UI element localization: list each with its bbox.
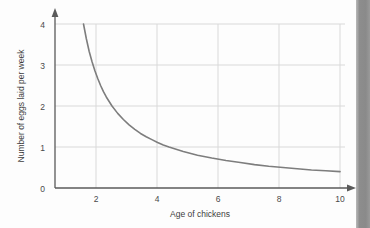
y-tick-label-1: 1 [40,143,45,153]
egg-production-line-chart: 0 1 2 3 4 2 4 6 8 10 Age of chickens Num… [0,0,370,228]
y-tick-label-4: 4 [40,20,45,30]
y-tick-label-2: 2 [40,102,45,112]
y-tick-label-0: 0 [40,184,45,194]
x-axis [55,185,356,192]
y-axis [52,8,59,188]
x-tick-label-6: 6 [216,194,221,204]
x-axis-title: Age of chickens [170,209,230,219]
data-curve-eggs-per-week [84,24,341,172]
x-axis-arrowhead [347,185,356,192]
x-tick-label-2: 2 [94,194,99,204]
y-axis-title: Number of eggs laid per week [16,49,26,163]
scanned-page-edge [356,0,370,228]
chart-figure: 0 1 2 3 4 2 4 6 8 10 Age of chickens Num… [0,0,370,228]
y-axis-arrowhead [52,8,59,17]
y-tick-label-3: 3 [40,61,45,71]
x-tick-label-10: 10 [335,194,345,204]
horizontal-gridlines [55,24,345,147]
x-tick-label-4: 4 [155,194,160,204]
x-tick-label-8: 8 [277,194,282,204]
